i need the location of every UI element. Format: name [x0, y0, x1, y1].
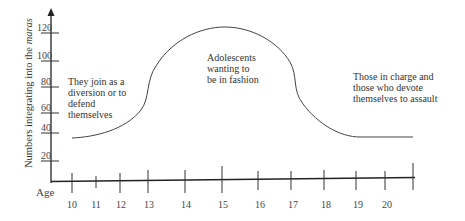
svg-text:20: 20: [41, 150, 51, 161]
svg-text:13: 13: [144, 199, 154, 210]
svg-text:60: 60: [41, 102, 51, 113]
svg-text:14: 14: [181, 199, 191, 210]
x-tick-labels: 10 11 12 13 14 15 16 17 18 19 20: [67, 199, 392, 210]
chart: 120 100 80 60 40 20 Numbers integrating …: [0, 0, 465, 221]
x-axis-label: Age: [36, 186, 54, 198]
svg-text:40: 40: [41, 122, 51, 133]
annotation-right: Those in charge and those who devote the…: [353, 71, 438, 104]
svg-text:10: 10: [67, 199, 77, 210]
svg-text:12: 12: [116, 199, 126, 210]
svg-text:15: 15: [218, 199, 228, 210]
svg-text:18: 18: [321, 199, 331, 210]
svg-text:20: 20: [382, 199, 392, 210]
svg-text:11: 11: [91, 199, 101, 210]
y-axis-arrow-icon: [48, 8, 55, 16]
svg-text:120: 120: [37, 22, 52, 33]
annotation-middle: Adolescents wanting to be in fashion: [207, 52, 259, 85]
svg-text:100: 100: [37, 50, 52, 61]
x-axis: [51, 178, 415, 182]
y-tick-labels: 120 100 80 60 40 20: [37, 22, 52, 161]
svg-text:16: 16: [255, 199, 265, 210]
svg-text:17: 17: [288, 199, 298, 210]
y-axis-label: Numbers integrating into the maras: [23, 18, 34, 168]
svg-text:19: 19: [353, 199, 363, 210]
annotation-left: They join as a diversion or to defend th…: [68, 76, 129, 120]
svg-text:80: 80: [41, 76, 51, 87]
